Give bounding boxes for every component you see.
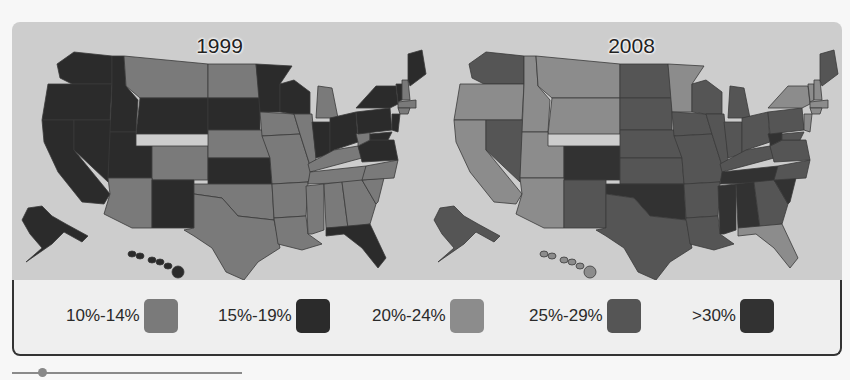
slider-thumb[interactable] bbox=[38, 368, 47, 377]
state-ut bbox=[108, 132, 152, 178]
state-ia bbox=[260, 112, 300, 136]
state-nj bbox=[392, 114, 400, 132]
legend-label: 20%-24% bbox=[372, 306, 446, 326]
state-ny bbox=[356, 86, 398, 108]
legend-item-25-29: 25%-29% bbox=[529, 298, 641, 334]
state-mt bbox=[536, 56, 620, 98]
state-ms bbox=[306, 184, 324, 234]
state-ne bbox=[620, 130, 682, 158]
state-az bbox=[104, 178, 152, 228]
state-hi-island bbox=[548, 253, 556, 259]
state-ia bbox=[672, 112, 712, 136]
legend-swatch bbox=[740, 299, 774, 333]
legend-swatch bbox=[607, 299, 641, 333]
state-nm bbox=[564, 180, 606, 228]
state-hi-island bbox=[156, 259, 164, 265]
legend-swatch bbox=[296, 299, 330, 333]
state-ks bbox=[620, 158, 684, 184]
state-wy bbox=[136, 98, 208, 134]
state-ny bbox=[768, 86, 810, 108]
state-nd bbox=[208, 64, 260, 98]
legend-label: 25%-29% bbox=[529, 306, 603, 326]
state-sd bbox=[620, 98, 672, 130]
state-hi-island bbox=[136, 253, 144, 259]
state-nc bbox=[362, 160, 398, 180]
state-az bbox=[516, 178, 564, 228]
state-ma bbox=[810, 100, 828, 108]
state-ne bbox=[208, 130, 270, 158]
map-title-2008: 2008 bbox=[424, 34, 839, 58]
us-map-1999 bbox=[12, 22, 427, 280]
state-co bbox=[564, 146, 620, 180]
state-fl bbox=[738, 224, 798, 268]
state-sd bbox=[208, 98, 260, 130]
state-ct bbox=[398, 108, 410, 114]
legend-item-15-19: 15%-19% bbox=[218, 298, 330, 334]
legend-label: >30% bbox=[692, 306, 736, 326]
legend-item-20-24: 20%-24% bbox=[372, 298, 484, 334]
state-wy bbox=[548, 98, 620, 134]
legend: 10%-14% 15%-19% 20%-24% 25%-29% >30% bbox=[12, 280, 842, 356]
state-co bbox=[152, 146, 208, 180]
state-fl bbox=[326, 224, 386, 268]
state-hi-island bbox=[164, 263, 172, 269]
legend-swatch bbox=[144, 299, 178, 333]
state-ct bbox=[810, 108, 822, 114]
legend-swatch bbox=[450, 299, 484, 333]
state-ms bbox=[718, 184, 736, 234]
state-hi-island bbox=[148, 257, 156, 263]
state-ut bbox=[520, 132, 564, 178]
state-ma bbox=[398, 100, 416, 108]
map-1999: 1999 bbox=[12, 22, 427, 280]
map-2008: 2008 bbox=[424, 22, 839, 280]
state-ar bbox=[272, 182, 308, 218]
state-nm bbox=[152, 180, 194, 228]
state-hi-island bbox=[540, 251, 548, 257]
maps-panel: 1999 2008 bbox=[12, 22, 842, 280]
map-title-1999: 1999 bbox=[12, 34, 427, 58]
state-pa bbox=[768, 108, 804, 134]
state-or bbox=[454, 84, 524, 120]
state-ak bbox=[22, 206, 88, 262]
state-ar bbox=[684, 182, 720, 218]
state-mi bbox=[728, 86, 750, 118]
us-map-2008 bbox=[424, 22, 839, 280]
state-hi-island bbox=[568, 259, 576, 265]
state-nj bbox=[804, 114, 812, 132]
state-nc bbox=[774, 160, 810, 180]
legend-item-10-14: 10%-14% bbox=[66, 298, 178, 334]
timeline-slider[interactable] bbox=[12, 372, 242, 374]
state-wi bbox=[692, 80, 722, 114]
state-mt bbox=[124, 56, 208, 98]
state-nd bbox=[620, 64, 672, 98]
state-hi-island bbox=[172, 266, 184, 278]
state-ks bbox=[208, 158, 272, 184]
state-hi-island bbox=[584, 266, 596, 278]
state-ak bbox=[434, 206, 500, 262]
state-wi bbox=[280, 80, 310, 114]
state-hi-island bbox=[576, 263, 584, 269]
state-md bbox=[370, 132, 392, 140]
legend-item-30-plus: >30% bbox=[692, 298, 774, 334]
state-hi-island bbox=[128, 251, 136, 257]
state-md bbox=[782, 132, 804, 140]
state-pa bbox=[356, 108, 392, 134]
legend-label: 15%-19% bbox=[218, 306, 292, 326]
state-mi bbox=[316, 86, 338, 118]
state-hi-island bbox=[560, 257, 568, 263]
state-or bbox=[42, 84, 112, 120]
legend-label: 10%-14% bbox=[66, 306, 140, 326]
